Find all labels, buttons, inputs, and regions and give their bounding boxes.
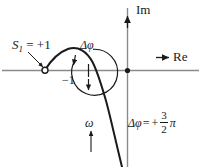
start-point-value: = +1 xyxy=(23,37,51,52)
imaginary-axis-label: Im xyxy=(136,3,150,16)
fraction-denominator: 2 xyxy=(160,123,168,135)
equation-lhs: Δφ xyxy=(128,117,142,129)
nyquist-locus-curve xyxy=(45,48,122,167)
s1-leader-group xyxy=(28,52,43,67)
locus-group xyxy=(42,48,122,167)
real-axis-label: Re xyxy=(173,50,187,63)
axis-group xyxy=(2,8,199,167)
equation-equals: = xyxy=(143,117,150,129)
nyquist-plot-figure: S1 = +1 Im Re Δφ −1 ω Δφ=+ 3 2 π xyxy=(0,0,201,167)
phase-arc-group xyxy=(72,49,118,95)
equation-pi-symbol: π xyxy=(170,117,176,129)
phase-arc-label: Δφ xyxy=(80,39,94,51)
origin-dot xyxy=(125,68,130,73)
start-point-label: S1 = +1 xyxy=(12,38,51,54)
fraction-numerator: 3 xyxy=(160,110,168,122)
s1-leader-line xyxy=(28,52,43,67)
phase-arc xyxy=(72,49,118,95)
equation-sign: + xyxy=(151,117,158,129)
start-point-open-circle xyxy=(42,67,48,73)
axis-arrow-group xyxy=(128,16,170,58)
phase-equation: Δφ=+ 3 2 π xyxy=(128,110,176,135)
minus-one-label: −1 xyxy=(62,74,75,86)
equation-fraction: 3 2 xyxy=(160,110,168,135)
omega-label: ω xyxy=(85,117,93,129)
plot-canvas xyxy=(0,0,201,167)
